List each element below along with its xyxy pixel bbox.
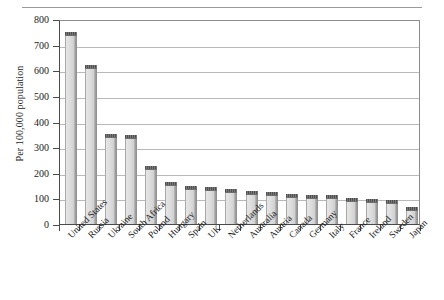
x-axis-tick-label: Ireland bbox=[367, 214, 393, 240]
x-axis-tick-labels: United StatesRussiaUkraineSouth AfricaPo… bbox=[0, 0, 444, 300]
x-axis-tick-label: UK bbox=[206, 223, 223, 240]
x-axis-tick-label: France bbox=[347, 215, 372, 240]
chart-figure: Per 100,000 population 80070060050040030… bbox=[0, 0, 444, 300]
